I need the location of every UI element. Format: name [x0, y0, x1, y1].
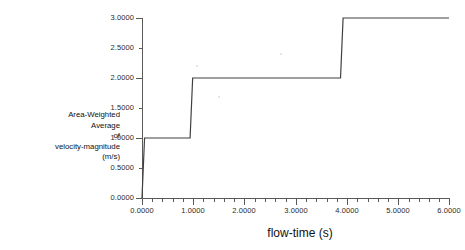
x-axis-title: flow-time (s) — [180, 226, 420, 240]
y-axis-title-line-3: velocity-magnitude — [12, 142, 120, 153]
scan-speck — [218, 96, 220, 98]
y-axis-title-line-0: Area-Weighted — [12, 110, 120, 121]
y-axis-title: Area-Weighted Average of velocity-magnit… — [12, 110, 120, 163]
y-axis-title-line-1: Average — [12, 121, 120, 132]
y-axis-title-line-4: (m/s) — [12, 152, 120, 163]
y-axis-title-line-2: of — [12, 131, 120, 142]
scan-speck — [280, 53, 282, 55]
scan-speck — [196, 65, 198, 67]
